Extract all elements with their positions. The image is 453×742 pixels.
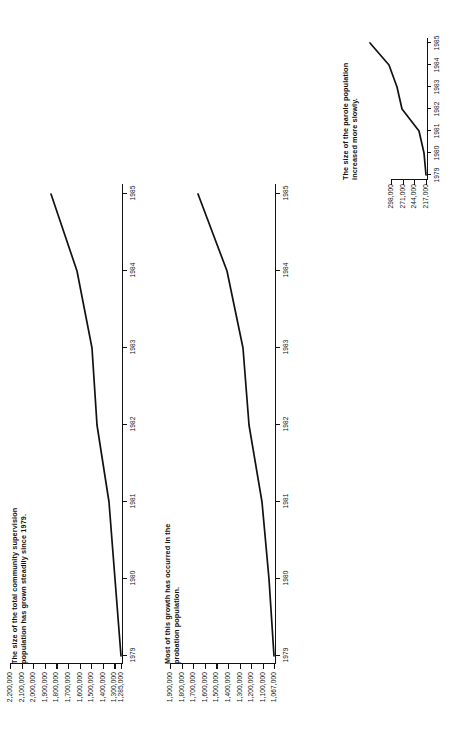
chart-2-y-tick (193, 663, 194, 669)
chart-2-x-tick (275, 655, 280, 656)
chart-2-series-svg (197, 104, 275, 664)
chart-1-y-label: 1,285,000 (117, 672, 124, 716)
chart-1-y-axis (10, 663, 123, 664)
chart-3-x-axis (427, 38, 428, 180)
chart-2-y-tick (251, 663, 252, 669)
chart-3-y-axis (391, 179, 428, 180)
chart-1-y-label: 1,500,000 (87, 672, 94, 716)
chart-2-line-probation (198, 194, 274, 656)
chart-1-x-tick (122, 578, 127, 579)
chart-1-y-label: 1,700,000 (64, 672, 71, 716)
chart-1-x-label: 1983 (129, 332, 136, 362)
chart-3-x-tick (427, 42, 431, 43)
chart-3-x-tick (427, 108, 431, 109)
chart-2-y-tick (170, 663, 171, 669)
chart-3-line-parole (370, 43, 426, 175)
chart-2-y-tick (263, 663, 264, 669)
chart-1-x-tick (122, 655, 127, 656)
chart-1-y-tick (33, 663, 34, 669)
chart-1-y-tick (80, 663, 81, 669)
chart-3-x-label: 1985 (433, 29, 440, 57)
chart-1-y-label: 1,600,000 (76, 672, 83, 716)
chart-2-plot-area: 1979 1980 1981 1982 1983 1984 1985 1,900… (197, 104, 275, 664)
chart-1-x-label: 1982 (129, 409, 136, 439)
chart-1-x-label: 1984 (129, 255, 136, 285)
chart-2-y-label: 1,900,000 (166, 672, 173, 716)
chart-1-x-tick (122, 347, 127, 348)
chart-2-y-tick (228, 663, 229, 669)
chart-1-x-tick (122, 193, 127, 194)
chart-probation-population: Most of this growth has occurred in the … (153, 0, 313, 742)
chart-parole-population: The size of the parole population increa… (333, 0, 453, 240)
chart-1-x-tick (122, 501, 127, 502)
chart-2-x-label: 1981 (282, 486, 289, 516)
chart-1-y-label: 2,000,000 (29, 672, 36, 716)
chart-1-y-tick (91, 663, 92, 669)
chart-1-y-label: 2,200,000 (6, 672, 13, 716)
chart-1-y-tick (68, 663, 69, 669)
chart-2-y-label: 1,300,000 (236, 672, 243, 716)
chart-2-x-label: 1980 (282, 563, 289, 593)
scanned-page: The size of the total community supervis… (0, 0, 453, 742)
chart-3-y-label: 271,000 (399, 184, 406, 224)
chart-2-x-label: 1979 (282, 640, 289, 670)
chart-total-community-supervision: The size of the total community supervis… (0, 0, 160, 742)
chart-1-y-label: 1,400,000 (99, 672, 106, 716)
chart-2-x-tick (275, 270, 280, 271)
chart-3-x-tick (427, 152, 431, 153)
chart-2-x-tick (275, 193, 280, 194)
chart-3-x-tick (427, 130, 431, 131)
chart-2-y-label: 1,800,000 (178, 672, 185, 716)
chart-2-y-label: 1,200,000 (247, 672, 254, 716)
chart-2-y-tick (205, 663, 206, 669)
chart-1-y-label: 2,100,000 (18, 672, 25, 716)
chart-1-x-tick (122, 270, 127, 271)
chart-2-y-tick (274, 663, 275, 669)
chart-2-x-label: 1984 (282, 255, 289, 285)
chart-1-x-label: 1985 (129, 178, 136, 208)
chart-3-caption: The size of the parole population increa… (341, 20, 359, 180)
chart-1-line-total (51, 194, 121, 656)
chart-2-x-label: 1982 (282, 409, 289, 439)
chart-2-x-label: 1983 (282, 332, 289, 362)
chart-1-x-label: 1981 (129, 486, 136, 516)
chart-1-x-tick (122, 424, 127, 425)
chart-2-x-tick (275, 501, 280, 502)
chart-2-y-axis (170, 663, 276, 664)
chart-2-y-label: 1,067,000 (270, 672, 277, 716)
chart-2-y-label: 1,700,000 (189, 672, 196, 716)
chart-3-y-label: 217,000 (422, 184, 429, 224)
chart-2-x-tick (275, 578, 280, 579)
chart-1-y-tick (103, 663, 104, 669)
chart-1-y-tick (10, 663, 11, 669)
chart-1-y-label: 1,300,000 (110, 672, 117, 716)
chart-1-y-tick (121, 663, 122, 669)
chart-2-x-tick (275, 347, 280, 348)
chart-3-x-tick (427, 86, 431, 87)
chart-3-y-label: 298,000 (387, 184, 394, 224)
chart-1-plot-area: 1979 1980 1981 1982 1983 1984 1985 (44, 104, 122, 664)
chart-2-y-label: 1,100,000 (259, 672, 266, 716)
chart-2-x-label: 1985 (282, 178, 289, 208)
chart-1-x-label: 1979 (129, 640, 136, 670)
chart-2-y-label: 1,500,000 (212, 672, 219, 716)
chart-1-series-svg (44, 104, 122, 664)
chart-1-y-tick (56, 663, 57, 669)
chart-3-x-tick (427, 174, 431, 175)
chart-2-y-tick (182, 663, 183, 669)
chart-3-plot-area: 1979 1980 1981 1982 1983 1984 1985 298,0… (369, 5, 427, 180)
chart-2-caption: Most of this growth has occurred in the … (163, 434, 181, 664)
chart-1-y-tick (22, 663, 23, 669)
chart-1-y-tick (45, 663, 46, 669)
chart-1-caption: The size of the total community supervis… (10, 434, 28, 664)
chart-2-y-tick (240, 663, 241, 669)
chart-2-y-tick (216, 663, 217, 669)
chart-1-x-label: 1980 (129, 563, 136, 593)
chart-1-y-label: 1,900,000 (41, 672, 48, 716)
chart-3-series-svg (369, 5, 427, 180)
chart-2-y-label: 1,600,000 (201, 672, 208, 716)
chart-3-x-tick (427, 64, 431, 65)
chart-2-y-label: 1,400,000 (224, 672, 231, 716)
chart-3-y-label: 244,000 (410, 184, 417, 224)
chart-1-y-label: 1,800,000 (52, 672, 59, 716)
